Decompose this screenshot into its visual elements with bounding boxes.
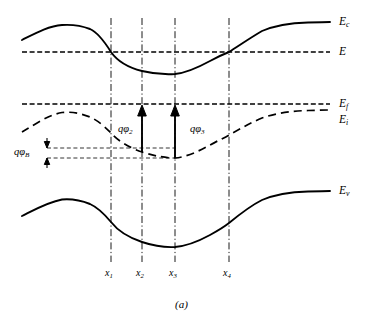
axis-tick-x3-sub: 3 [173,272,176,279]
label-Ev-base: E [339,184,346,196]
label-E-base: E [339,45,346,57]
label-Ev: Ev [339,185,350,198]
energy-curve-Ec [22,22,330,74]
energy-curve-Ev [22,191,330,247]
label-qphi3: qφ3 [190,124,205,136]
vertical-marker-lines [111,18,229,262]
gap-measure-lines [47,148,178,158]
label-Ef-base: E [339,97,346,109]
axis-tick-x2-sub: 2 [140,272,143,279]
gap-measure-arrowhead-lower [44,158,49,165]
figure-caption: (a) [175,299,188,310]
label-Ef: Ef [339,98,348,111]
label-qphi2-base: qφ [118,123,129,134]
label-qphiB: qφB [14,147,29,159]
label-qphi2-sub: 2 [129,128,133,136]
label-Ef-sub: f [346,102,348,111]
axis-tick-label-x3: x3 [169,268,177,280]
axis-tick-x4-sub: 4 [227,272,230,279]
label-Ei-sub: i [346,118,348,127]
axis-tick-label-x4: x4 [223,268,231,280]
label-Ev-sub: v [346,189,349,198]
annotation-arrow-qphi3 [171,105,180,158]
label-qphiB-base: qφ [14,146,25,157]
label-Ec-base: E [339,15,346,27]
gap-measure-arrowhead-upper [44,142,49,149]
qphi2-arrowhead [138,105,147,116]
label-qphi2: qφ2 [118,124,133,136]
axis-tick-label-x1: x1 [105,268,113,280]
band-diagram-plot [0,0,375,326]
label-qphi3-sub: 3 [201,128,205,136]
label-Ei: Ei [339,114,348,127]
label-qphi3-base: qφ [190,123,201,134]
axis-tick-x1-sub: 1 [109,272,112,279]
label-E: E [339,46,346,59]
label-qphiB-sub: B [25,151,29,159]
label-Ec-sub: c [346,20,349,29]
energy-band-diagram-figure: Ec E Ef Ei Ev qφ2 qφ3 qφB x1 x2 x3 x4 (a… [0,0,375,326]
energy-curve-Ei [22,110,330,158]
annotation-arrow-qphi2 [138,105,147,152]
axis-tick-label-x2: x2 [136,268,144,280]
label-Ec: Ec [339,16,350,29]
label-Ei-base: E [339,113,346,125]
qphi3-arrowhead [171,105,180,116]
gap-measure-arrow-qphiB [44,138,49,168]
